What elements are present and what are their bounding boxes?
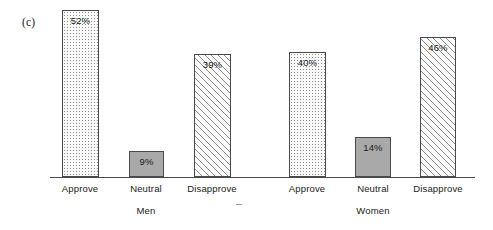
bar-value-men-neutral: 9%	[129, 156, 164, 167]
group-label-men: Men	[101, 205, 191, 216]
bar-value-men-disapprove: 39%	[194, 59, 231, 70]
bar-value-women-approve: 40%	[289, 57, 326, 68]
bar-women-approve[interactable]	[289, 52, 326, 177]
chart-figure: (c) 52% 9% 39% 40% 14% 46% Approve Neutr…	[0, 0, 493, 230]
stray-tick-mark	[236, 204, 242, 205]
bar-women-disapprove[interactable]	[420, 37, 456, 177]
bar-value-women-neutral: 14%	[355, 142, 391, 153]
bar-men-approve[interactable]	[62, 10, 99, 177]
bar-value-men-approve: 52%	[62, 15, 99, 26]
group-label-women: Women	[328, 205, 418, 216]
plot-area: 52% 9% 39% 40% 14% 46% Approve Neutral D…	[0, 0, 493, 230]
tick-label-men-disapprove: Disapprove	[167, 183, 257, 194]
tick-label-women-disapprove: Disapprove	[393, 183, 483, 194]
bar-value-women-disapprove: 46%	[420, 42, 456, 53]
x-axis-line	[50, 177, 475, 178]
bar-men-disapprove[interactable]	[194, 54, 231, 177]
